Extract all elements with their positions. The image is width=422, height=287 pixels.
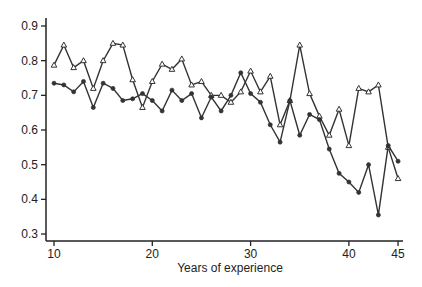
triangle-marker bbox=[51, 62, 57, 67]
triangle-marker bbox=[336, 106, 342, 111]
triangle-marker bbox=[395, 176, 401, 181]
triangle-marker bbox=[199, 78, 205, 83]
circle-marker bbox=[190, 92, 194, 96]
triangle-marker bbox=[120, 42, 126, 47]
triangle-marker bbox=[346, 143, 352, 148]
circle-marker bbox=[249, 92, 253, 96]
circle-marker bbox=[209, 95, 213, 99]
y-tick-label: 0.6 bbox=[21, 123, 38, 137]
circle-marker bbox=[140, 92, 144, 96]
y-tick-label: 0.4 bbox=[21, 192, 38, 206]
x-axis-title: Years of experience bbox=[177, 261, 283, 275]
triangle-marker bbox=[179, 56, 185, 61]
triangle-marker bbox=[307, 91, 313, 96]
triangle-series-line bbox=[54, 43, 398, 178]
circle-marker bbox=[357, 190, 361, 194]
triangle-marker bbox=[356, 85, 362, 90]
y-tick-label: 0.3 bbox=[21, 227, 38, 241]
x-tick-label: 20 bbox=[146, 247, 160, 261]
triangle-marker bbox=[218, 92, 224, 97]
circle-marker bbox=[170, 88, 174, 92]
triangle-marker bbox=[376, 82, 382, 87]
y-tick-label: 0.8 bbox=[21, 54, 38, 68]
triangle-marker bbox=[130, 77, 136, 82]
circle-marker bbox=[131, 97, 135, 101]
circle-marker bbox=[101, 81, 105, 85]
circle-marker bbox=[219, 109, 223, 113]
triangle-marker bbox=[81, 58, 87, 63]
circle-marker bbox=[180, 99, 184, 103]
circle-marker bbox=[199, 116, 203, 120]
y-tick-label: 0.9 bbox=[21, 19, 38, 33]
circle-marker bbox=[52, 81, 56, 85]
circle-marker bbox=[298, 133, 302, 137]
circle-marker bbox=[268, 123, 272, 127]
circle-marker bbox=[337, 171, 341, 175]
triangle-marker bbox=[91, 85, 97, 90]
triangle-marker bbox=[189, 82, 195, 87]
triangle-marker bbox=[267, 73, 273, 78]
x-tick-label: 45 bbox=[391, 247, 405, 261]
circle-marker bbox=[376, 213, 380, 217]
circle-marker bbox=[150, 99, 154, 103]
triangle-marker bbox=[277, 122, 283, 127]
circle-marker bbox=[288, 99, 292, 103]
circle-marker bbox=[121, 99, 125, 103]
triangle-marker bbox=[159, 61, 165, 66]
circle-marker bbox=[91, 105, 95, 109]
series-group bbox=[51, 40, 401, 217]
circle-marker bbox=[317, 118, 321, 122]
triangle-marker bbox=[326, 132, 332, 137]
triangle-marker bbox=[297, 42, 303, 47]
circle-marker bbox=[72, 90, 76, 94]
x-tick-label: 10 bbox=[47, 247, 61, 261]
circle-marker bbox=[111, 86, 115, 90]
circle-marker bbox=[278, 140, 282, 144]
circle-marker bbox=[308, 112, 312, 116]
triangle-marker bbox=[140, 104, 146, 109]
x-tick-label: 40 bbox=[342, 247, 356, 261]
triangle-marker bbox=[248, 68, 254, 73]
y-tick-label: 0.7 bbox=[21, 88, 38, 102]
circle-marker bbox=[396, 159, 400, 163]
circle-marker bbox=[386, 144, 390, 148]
circle-marker bbox=[347, 180, 351, 184]
circle-series-line bbox=[54, 73, 398, 215]
circle-marker bbox=[327, 147, 331, 151]
circle-marker bbox=[160, 109, 164, 113]
triangle-marker bbox=[238, 89, 244, 94]
triangle-marker bbox=[366, 89, 372, 94]
circle-marker bbox=[62, 83, 66, 87]
triangle-marker bbox=[71, 65, 77, 70]
circle-marker bbox=[81, 79, 85, 83]
line-chart: 0.30.40.50.60.70.80.91020304045 Years of… bbox=[0, 0, 422, 287]
y-tick-label: 0.5 bbox=[21, 158, 38, 172]
circle-marker bbox=[258, 100, 262, 104]
triangle-marker bbox=[61, 42, 67, 47]
x-tick-label: 30 bbox=[244, 247, 258, 261]
circle-marker bbox=[239, 71, 243, 75]
circle-marker bbox=[229, 93, 233, 97]
triangle-marker bbox=[110, 40, 116, 45]
circle-marker bbox=[367, 163, 371, 167]
